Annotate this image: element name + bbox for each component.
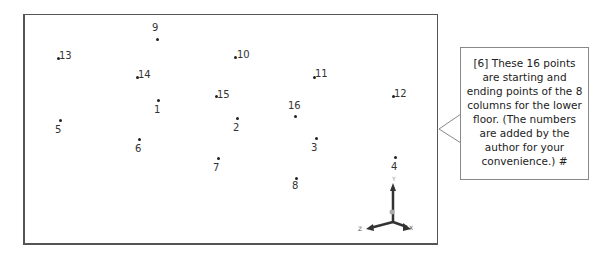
point-label: 3	[311, 143, 317, 153]
point-label: 6	[135, 144, 141, 154]
point-5[interactable]	[59, 119, 62, 122]
point-6[interactable]	[138, 138, 141, 141]
point-label: 13	[59, 51, 72, 61]
callout-pointer	[438, 110, 462, 150]
coordinate-triad-icon: Y Z X	[357, 172, 413, 232]
point-9[interactable]	[156, 38, 159, 41]
point-label: 4	[391, 162, 397, 172]
point-label: 1	[154, 105, 160, 115]
callout-note: [6] These 16 points are starting and end…	[460, 47, 589, 180]
point-label: 10	[237, 50, 250, 60]
svg-text:Y: Y	[391, 175, 396, 182]
point-label: 2	[233, 123, 239, 133]
point-4[interactable]	[394, 156, 397, 159]
point-1[interactable]	[157, 99, 160, 102]
point-2[interactable]	[236, 117, 239, 120]
point-7[interactable]	[217, 157, 220, 160]
point-16[interactable]	[294, 115, 297, 118]
point-label: 9	[152, 23, 158, 33]
point-3[interactable]	[315, 137, 318, 140]
point-label: 7	[213, 163, 219, 173]
callout-text: [6] These 16 points are starting and end…	[467, 57, 583, 167]
point-label: 12	[394, 89, 407, 99]
svg-text:X: X	[409, 224, 413, 231]
point-label: 14	[138, 70, 151, 80]
point-label: 16	[288, 101, 301, 111]
point-label: 5	[55, 125, 61, 135]
point-label: 15	[217, 90, 230, 100]
point-label: 8	[292, 181, 298, 191]
svg-text:Z: Z	[358, 225, 362, 232]
point-label: 11	[315, 69, 328, 79]
